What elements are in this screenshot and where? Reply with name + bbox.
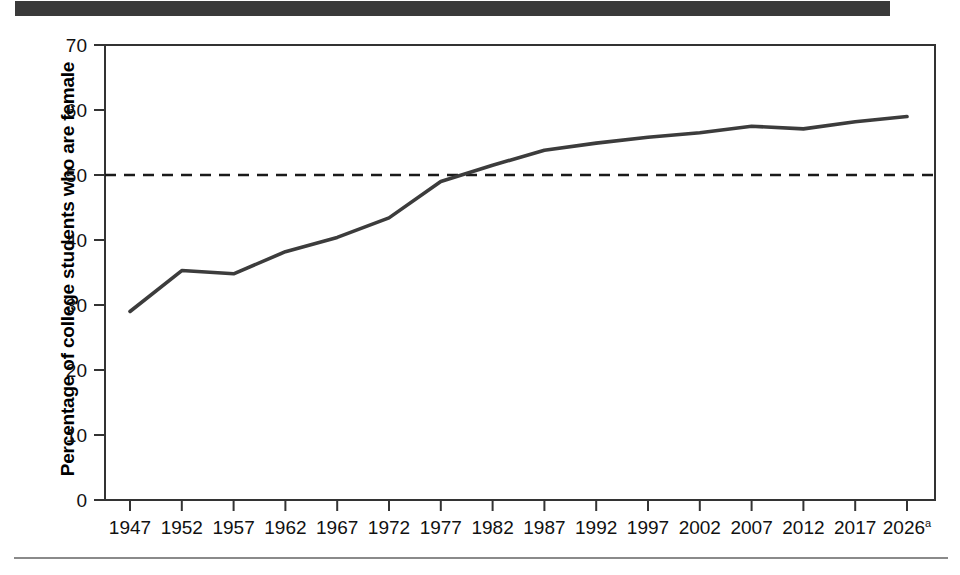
x-axis-tick-label: 2012 [782, 517, 824, 538]
y-axis-ticks [94, 45, 105, 500]
x-axis-tick-label: 2026a [883, 517, 932, 538]
y-axis-tick-label: 20 [66, 360, 87, 381]
y-axis-tick-label: 40 [66, 230, 87, 251]
footer-rule [14, 557, 948, 559]
y-axis-tick-label: 30 [66, 295, 87, 316]
x-axis-tick-label: 1957 [212, 517, 254, 538]
y-axis-tick-label: 0 [76, 490, 87, 511]
y-axis-tick-label: 50 [66, 165, 87, 186]
x-axis-tick-label: 1952 [161, 517, 203, 538]
x-axis-tick-label: 1982 [471, 517, 513, 538]
x-axis-tick-label: 1947 [109, 517, 151, 538]
y-axis-tick-labels: 010203040506070 [66, 35, 87, 511]
y-axis-tick-label: 10 [66, 425, 87, 446]
x-axis-tick-label: 2002 [679, 517, 721, 538]
figure-canvas: Percentage of college students who are f… [0, 0, 960, 575]
x-axis-tick-label: 2017 [834, 517, 876, 538]
x-axis-tick-label: 1997 [627, 517, 669, 538]
x-axis-tick-label: 1962 [264, 517, 306, 538]
x-axis-tick-label: 2007 [730, 517, 772, 538]
x-axis-tick-label: 1977 [420, 517, 462, 538]
x-axis-tick-label: 1967 [316, 517, 358, 538]
y-axis-tick-label: 60 [66, 100, 87, 121]
x-axis-tick-labels: 1947195219571962196719721977198219871992… [109, 517, 932, 538]
y-axis-tick-label: 70 [66, 35, 87, 56]
x-axis-tick-label: 1992 [575, 517, 617, 538]
line-chart: 010203040506070 194719521957196219671972… [0, 0, 960, 575]
x-axis-ticks [130, 500, 907, 511]
x-axis-tick-label: 1987 [523, 517, 565, 538]
x-axis-tick-label: 1972 [368, 517, 410, 538]
